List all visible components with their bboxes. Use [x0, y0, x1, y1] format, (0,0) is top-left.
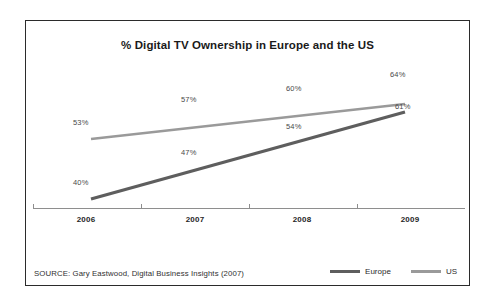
legend-item-europe[interactable]: Europe — [330, 267, 391, 276]
x-axis-label-2008: 2008 — [272, 215, 332, 224]
value-label-us-2009: 64% — [390, 70, 406, 79]
x-axis-label-2007: 2007 — [165, 215, 225, 224]
x-tick-start — [33, 204, 34, 209]
series-line-europe — [91, 112, 405, 199]
value-label-us-2006: 53% — [73, 118, 89, 127]
value-label-europe-2008: 54% — [286, 122, 302, 131]
x-axis-label-2009: 2009 — [380, 215, 440, 224]
source-note: SOURCE: Gary Eastwood, Digital Business … — [34, 269, 244, 278]
x-tick-1 — [141, 204, 142, 209]
value-label-europe-2009: 61% — [395, 102, 411, 111]
legend-label-europe: Europe — [365, 267, 391, 276]
chart-page: % Digital TV Ownership in Europe and the… — [0, 0, 497, 303]
value-label-us-2007: 57% — [181, 95, 197, 104]
series-line-us — [91, 104, 405, 139]
legend-swatch-us-icon — [411, 270, 441, 273]
legend-item-us[interactable]: US — [411, 267, 457, 276]
legend-swatch-europe-icon — [330, 270, 360, 273]
chart-frame: % Digital TV Ownership in Europe and the… — [25, 20, 470, 286]
x-tick-2 — [249, 204, 250, 209]
value-label-us-2008: 60% — [286, 84, 302, 93]
x-axis-label-2006: 2006 — [56, 215, 116, 224]
chart-title: % Digital TV Ownership in Europe and the… — [26, 39, 469, 51]
value-label-europe-2007: 47% — [181, 148, 197, 157]
chart-legend: Europe US — [330, 267, 457, 276]
value-label-europe-2006: 40% — [73, 178, 89, 187]
x-tick-3 — [357, 204, 358, 209]
legend-label-us: US — [446, 267, 457, 276]
